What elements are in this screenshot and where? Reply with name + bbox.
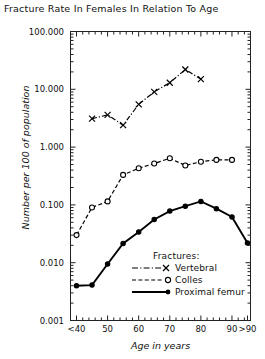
series-marker-colles <box>230 157 235 162</box>
series-marker-proximal-femur <box>152 217 156 221</box>
series-marker-vertebral <box>120 122 126 128</box>
chart-legend: Fractures: Vertebral Colles <box>131 251 247 298</box>
series-marker-vertebral <box>136 101 142 107</box>
series-marker-proximal-femur <box>245 241 249 245</box>
legend-item-proximal-femur: Proximal femur <box>131 286 247 298</box>
series-marker-proximal-femur <box>137 230 141 234</box>
legend-label-proximal-femur: Proximal femur <box>175 286 245 298</box>
legend-label-colles: Colles <box>175 274 203 286</box>
series-marker-proximal-femur <box>183 204 187 208</box>
series-marker-colles <box>121 172 126 177</box>
series-marker-colles <box>90 205 95 210</box>
series-marker-colles <box>214 157 219 162</box>
chart-graphics <box>0 0 265 359</box>
series-line-colles <box>77 158 233 235</box>
series-marker-proximal-femur <box>74 284 78 288</box>
series-marker-colles <box>152 161 157 166</box>
series-marker-colles <box>198 159 203 164</box>
series-marker-colles <box>183 163 188 168</box>
series-marker-proximal-femur <box>199 199 203 203</box>
legend-item-colles: Colles <box>131 274 247 286</box>
series-marker-colles <box>74 233 79 238</box>
legend-swatch-vertebral <box>131 262 173 274</box>
legend-title: Fractures: <box>153 251 247 261</box>
series-marker-proximal-femur <box>168 209 172 213</box>
legend-label-vertebral: Vertebral <box>175 262 217 274</box>
series-marker-vertebral <box>167 80 173 86</box>
series-marker-vertebral <box>151 89 157 95</box>
series-line-vertebral <box>92 70 201 126</box>
series-marker-proximal-femur <box>121 241 125 245</box>
legend-item-vertebral: Vertebral <box>131 262 247 274</box>
chart-figure: Fracture Rate In Females In Relation To … <box>0 0 265 359</box>
series-marker-colles <box>167 156 172 161</box>
series-marker-proximal-femur <box>230 215 234 219</box>
legend-swatch-proximal-femur <box>131 286 173 298</box>
series-marker-vertebral <box>182 67 188 73</box>
series-marker-proximal-femur <box>214 207 218 211</box>
series-marker-colles <box>105 199 110 204</box>
series-marker-proximal-femur <box>105 262 109 266</box>
legend-swatch-colles <box>131 274 173 286</box>
series-marker-colles <box>136 166 141 171</box>
series-marker-vertebral <box>198 76 204 82</box>
series-marker-proximal-femur <box>90 283 94 287</box>
